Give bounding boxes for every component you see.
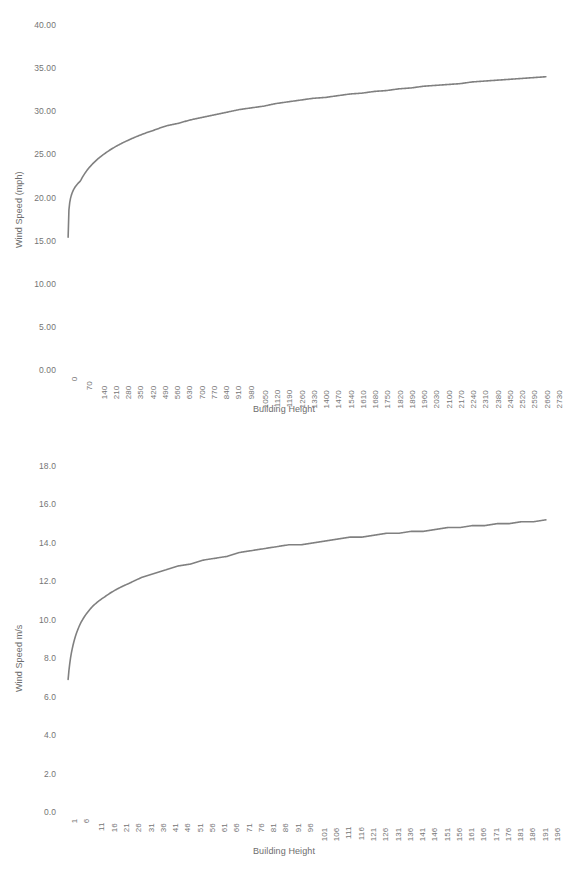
chart1-series-line xyxy=(68,77,546,237)
chart1-y-tick: 0.00 xyxy=(0,365,56,375)
chart2-x-tick: 46 xyxy=(183,819,192,828)
chart1-x-tick: 1120 xyxy=(273,381,282,399)
chart1-x-tick: 1260 xyxy=(298,381,307,399)
chart1-y-tick: 15.00 xyxy=(0,236,56,246)
chart1-x-tick: 1890 xyxy=(408,381,417,399)
chart1-x-tick: 140 xyxy=(99,379,108,393)
chart2-x-tick: 1 xyxy=(70,816,79,821)
chart1-x-tick: 2030 xyxy=(432,381,441,399)
chart2-x-tick: 161 xyxy=(467,821,476,835)
chart1-x-tick: 350 xyxy=(136,379,145,393)
chart1-y-tick: 35.00 xyxy=(0,63,56,73)
chart2-x-tick: 121 xyxy=(369,821,378,835)
chart1-x-tick: 1050 xyxy=(261,381,270,399)
chart1-x-tick: 1610 xyxy=(359,381,368,399)
chart2-x-tick: 6 xyxy=(83,816,92,821)
chart1-y-tick: 25.00 xyxy=(0,149,56,159)
chart1-y-tick: 10.00 xyxy=(0,279,56,289)
chart1-x-tick: 560 xyxy=(173,379,182,393)
chart1-x-tick: 2730 xyxy=(555,381,564,399)
chart2-x-tick: 176 xyxy=(504,821,513,835)
chart1-line-svg xyxy=(62,25,552,370)
chart2-y-tick: 0.0 xyxy=(0,807,56,817)
chart2-x-tick: 11 xyxy=(97,818,106,827)
chart1-y-tick: 40.00 xyxy=(0,20,56,30)
chart1-x-tick: 2590 xyxy=(530,381,539,399)
chart1-x-tick: 490 xyxy=(161,379,170,393)
chart2-x-tick: 196 xyxy=(553,821,562,835)
chart1-x-axis-title: Building Height xyxy=(0,404,568,414)
chart2-x-tick: 186 xyxy=(528,821,537,835)
chart1-x-tick: 630 xyxy=(185,379,194,393)
chart2-x-tick: 91 xyxy=(293,819,302,828)
chart1-y-tick: 30.00 xyxy=(0,106,56,116)
chart2-x-tick: 146 xyxy=(430,821,439,835)
chart2-x-tick: 96 xyxy=(305,819,314,828)
chart2-y-tick: 8.0 xyxy=(0,653,56,663)
chart2-x-tick: 141 xyxy=(418,821,427,835)
chart2-x-tick: 126 xyxy=(381,821,390,835)
chart2-y-tick: 14.0 xyxy=(0,538,56,548)
chart2-x-tick: 86 xyxy=(281,819,290,828)
chart1-x-tick: 910 xyxy=(234,379,243,393)
chart1-y-tick: 20.00 xyxy=(0,193,56,203)
chart2-x-tick: 66 xyxy=(232,819,241,828)
chart2-x-tick: 41 xyxy=(171,819,180,828)
chart1-x-tick: 840 xyxy=(222,379,231,393)
chart1-plot-area xyxy=(62,25,552,370)
chart2-x-tick: 31 xyxy=(146,819,155,828)
chart1-x-tick: 2450 xyxy=(506,381,515,399)
chart2-y-tick: 4.0 xyxy=(0,730,56,740)
chart2-x-tick: 111 xyxy=(344,820,353,832)
chart1-x-tick: 770 xyxy=(210,379,219,393)
chart2-x-tick: 166 xyxy=(479,821,488,835)
chart2-x-tick: 81 xyxy=(269,819,278,828)
chart2-x-tick: 61 xyxy=(220,819,229,828)
chart1-x-tick: 1470 xyxy=(334,381,343,399)
chart2-x-tick: 131 xyxy=(393,821,402,835)
chart1-x-tick: 2660 xyxy=(543,381,552,399)
chart2-x-tick: 171 xyxy=(491,821,500,835)
chart2-x-tick: 26 xyxy=(134,819,143,828)
chart2-series-line xyxy=(68,520,546,680)
chart1-x-tick: 2100 xyxy=(445,381,454,399)
chart2-x-tick: 191 xyxy=(540,821,549,835)
chart2-x-tick: 106 xyxy=(332,821,341,835)
chart1-x-tick: 210 xyxy=(112,379,121,393)
chart1-x-tick: 2520 xyxy=(518,381,527,399)
chart2-y-tick: 16.0 xyxy=(0,499,56,509)
chart1-x-tick: 1960 xyxy=(420,381,429,399)
chart1-x-tick: 1190 xyxy=(285,381,294,399)
chart2-x-tick: 56 xyxy=(207,819,216,828)
chart1-y-tick: 5.00 xyxy=(0,322,56,332)
chart2-x-tick: 16 xyxy=(109,819,118,828)
chart1-x-tick: 420 xyxy=(148,379,157,393)
chart1-x-tick: 280 xyxy=(124,379,133,393)
chart1-x-tick: 1680 xyxy=(371,381,380,399)
chart2-plot-area xyxy=(62,466,552,812)
chart2-x-tick: 36 xyxy=(158,819,167,828)
chart1-x-tick: 1750 xyxy=(383,381,392,399)
chart1-x-tick: 2240 xyxy=(469,381,478,399)
chart2-x-tick: 21 xyxy=(122,819,131,828)
chart2-x-tick: 156 xyxy=(455,821,464,835)
chart-wind-speed-mph: Wind Speed (mph) 0.005.0010.0015.0020.00… xyxy=(0,0,568,440)
chart2-x-tick: 116 xyxy=(356,821,365,834)
chart2-x-tick: 51 xyxy=(195,819,204,828)
chart-wind-speed-ms: Wind Speed m/s 0.02.04.06.08.010.012.014… xyxy=(0,440,568,877)
chart1-x-tick: 2170 xyxy=(457,381,466,399)
chart2-y-tick: 18.0 xyxy=(0,461,56,471)
chart2-y-tick: 2.0 xyxy=(0,769,56,779)
chart1-x-tick: 2380 xyxy=(494,381,503,399)
chart1-x-tick: 2310 xyxy=(481,381,490,399)
chart1-x-tick: 1330 xyxy=(310,381,319,399)
chart2-line-svg xyxy=(62,466,552,812)
chart1-x-tick: 1400 xyxy=(322,381,331,399)
chart2-y-tick: 12.0 xyxy=(0,576,56,586)
chart2-y-tick: 10.0 xyxy=(0,615,56,625)
chart1-x-tick: 700 xyxy=(197,379,206,393)
chart1-x-tick: 0 xyxy=(70,374,79,379)
chart2-y-tick: 6.0 xyxy=(0,692,56,702)
chart1-x-tick: 1540 xyxy=(347,381,356,399)
chart2-x-tick: 136 xyxy=(406,821,415,835)
